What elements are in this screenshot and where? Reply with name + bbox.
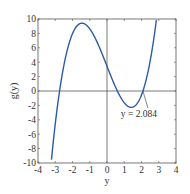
y-tick-label: 0 bbox=[31, 86, 36, 96]
y-tick-label: -10 bbox=[23, 158, 36, 168]
x-tick-label: 2 bbox=[139, 165, 144, 175]
y-tick-label: 8 bbox=[31, 29, 36, 39]
y-tick-label: -4 bbox=[28, 115, 36, 125]
x-tick-label: 3 bbox=[156, 165, 161, 175]
x-tick-label: 0 bbox=[105, 165, 110, 175]
x-tick-label: -3 bbox=[51, 165, 59, 175]
x-tick-label: 4 bbox=[174, 165, 179, 175]
y-tick-label: -2 bbox=[28, 101, 36, 111]
y-tick-label: 10 bbox=[27, 14, 37, 24]
y-tick-label: 4 bbox=[31, 58, 36, 68]
y-tick-label: -6 bbox=[28, 130, 36, 140]
annotation-label: y = 2.084 bbox=[121, 109, 157, 119]
annotation-leader-line bbox=[143, 91, 148, 108]
y-tick-label: 2 bbox=[31, 72, 36, 82]
y-tick-label: 6 bbox=[31, 43, 36, 53]
data-curve bbox=[51, 20, 156, 159]
tick-labels: -4-3-2-101234-10-8-6-4-20246810 bbox=[23, 14, 178, 175]
x-tick-label: 1 bbox=[122, 165, 127, 175]
y-axis-label: g(y) bbox=[8, 83, 20, 100]
chart: -4-3-2-101234-10-8-6-4-20246810 y = 2.08… bbox=[0, 0, 190, 194]
plot-area bbox=[38, 19, 176, 163]
y-tick-label: -8 bbox=[28, 144, 36, 154]
x-axis-label: y bbox=[105, 175, 110, 186]
x-tick-label: -2 bbox=[69, 165, 77, 175]
x-tick-label: -1 bbox=[86, 165, 94, 175]
